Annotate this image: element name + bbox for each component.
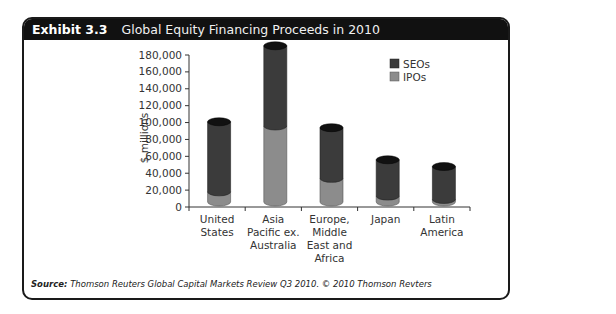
x-category-label: Japan <box>370 213 400 225</box>
y-tick-label: 0 <box>175 201 182 213</box>
x-category-label: America <box>420 226 463 238</box>
x-category-label: Africa <box>315 252 345 264</box>
bar-top-ellipse <box>264 42 287 50</box>
stacked-cylinder-bar-chart: 020,00040,00060,00080,000100,000120,0001… <box>24 19 508 298</box>
seo-segment <box>208 122 231 196</box>
bar-top-ellipse <box>376 156 399 164</box>
x-category-label: United <box>200 213 235 225</box>
x-category-label: East and <box>307 239 353 251</box>
legend-swatch-seos <box>390 59 399 68</box>
exhibit-frame: Exhibit 3.3 Global Equity Financing Proc… <box>22 17 510 300</box>
bar-top-ellipse <box>208 118 231 126</box>
x-category-label: States <box>200 226 233 238</box>
source-note: Source: Thomson Reuters Global Capital M… <box>31 279 432 289</box>
source-label: Source: <box>31 279 67 289</box>
y-tick-label: 160,000 <box>139 65 182 77</box>
x-category-label: Asia <box>262 213 284 225</box>
x-category-label: Latin <box>429 213 455 225</box>
legend-label-ipos: IPOs <box>403 71 426 83</box>
x-category-label: Pacific ex. <box>247 226 300 238</box>
seo-segment <box>320 128 343 183</box>
y-tick-label: 180,000 <box>139 49 182 61</box>
x-category-label: Australia <box>250 239 296 251</box>
y-tick-label: 20,000 <box>145 184 182 196</box>
y-tick-label: 80,000 <box>145 133 182 145</box>
seo-segment <box>432 167 455 204</box>
legend-label-seos: SEOs <box>403 58 430 70</box>
seo-segment <box>264 46 287 130</box>
y-axis-label: $ millions <box>138 113 150 163</box>
source-text: Thomson Reuters Global Capital Markets R… <box>70 279 432 289</box>
y-tick-label: 120,000 <box>139 99 182 111</box>
legend-swatch-ipos <box>390 72 399 81</box>
bar-top-ellipse <box>432 163 455 171</box>
x-category-label: Europe, <box>309 213 349 225</box>
y-tick-label: 40,000 <box>145 167 182 179</box>
bar-top-ellipse <box>320 124 343 132</box>
ipo-segment <box>264 126 287 206</box>
seo-segment <box>376 160 399 200</box>
y-tick-label: 140,000 <box>139 82 182 94</box>
x-category-label: Middle <box>312 226 347 238</box>
y-tick-label: 60,000 <box>145 150 182 162</box>
